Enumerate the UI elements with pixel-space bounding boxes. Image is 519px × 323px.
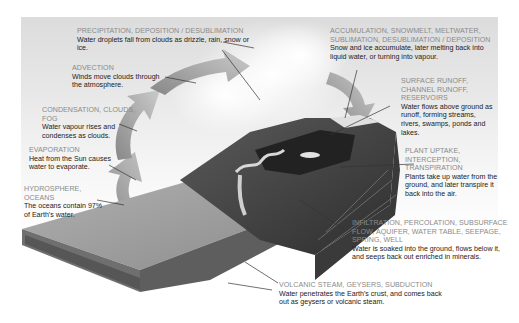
label-heading: INFILTRATION, PERCOLATION, SUBSURFACE FL… <box>352 219 512 245</box>
label-surface-runoff: SURFACE RUNOFF, CHANNEL RUNOFF, RESERVOI… <box>401 77 496 137</box>
label-volcanic: VOLCANIC STEAM, GEYSERS, SUBDUCTION Wate… <box>279 281 444 307</box>
label-precipitation: PRECIPITATION, DEPOSITION / DESUBLIMATIO… <box>77 27 257 53</box>
label-heading: SURFACE RUNOFF, CHANNEL RUNOFF, RESERVOI… <box>401 77 496 103</box>
label-body: Water is soaked into the ground, flows b… <box>352 245 512 262</box>
label-heading: HYDROSPHERE, OCEANS <box>24 185 104 202</box>
label-heading: VOLCANIC STEAM, GEYSERS, SUBDUCTION <box>279 281 444 290</box>
label-evaporation: EVAPORATION Heat from the Sun causes wat… <box>29 146 114 172</box>
label-body: Winds move clouds through the atmosphere… <box>72 73 167 90</box>
label-body: Snow and ice accumulate, later melting b… <box>330 44 495 61</box>
label-hydrosphere: HYDROSPHERE, OCEANS The oceans contain 9… <box>24 185 104 219</box>
label-heading: EVAPORATION <box>29 146 114 155</box>
label-heading: CONDENSATION, CLOUDS, FOG <box>42 106 142 123</box>
label-heading: ACCUMULATION, SNOWMELT, MELTWATER, SUBLI… <box>330 27 495 44</box>
label-body: Water flows above ground as runoff, form… <box>401 103 496 137</box>
label-advection: ADVECTION Winds move clouds through the … <box>72 64 167 90</box>
label-plant-uptake: PLANT UPTAKE, INTERCEPTION, TRANSPIRATIO… <box>405 147 510 199</box>
label-body: The oceans contain 97% of Earth's water. <box>24 202 104 219</box>
label-body: Water penetrates the Earth's crust, and … <box>279 290 444 307</box>
label-body: Plants take up water from the ground, an… <box>405 173 510 199</box>
label-heading: ADVECTION <box>72 64 167 73</box>
label-heading: PRECIPITATION, DEPOSITION / DESUBLIMATIO… <box>77 27 257 36</box>
label-accumulation: ACCUMULATION, SNOWMELT, MELTWATER, SUBLI… <box>330 27 495 61</box>
label-body: Water droplets fall from clouds as drizz… <box>77 36 257 53</box>
label-infiltration: INFILTRATION, PERCOLATION, SUBSURFACE FL… <box>352 219 512 262</box>
label-heading: PLANT UPTAKE, INTERCEPTION, TRANSPIRATIO… <box>405 147 510 173</box>
label-condensation: CONDENSATION, CLOUDS, FOG Water vapour r… <box>42 106 142 140</box>
label-body: Heat from the Sun causes water to evapor… <box>29 155 114 172</box>
label-body: Water vapour rises and condenses as clou… <box>42 123 142 140</box>
